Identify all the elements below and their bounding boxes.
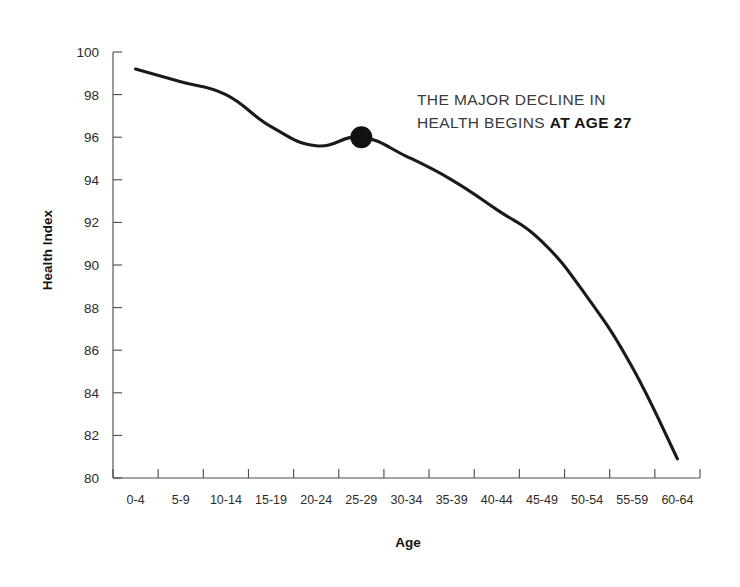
annotation-line-2: HEALTH BEGINS AT AGE 27 (417, 114, 632, 131)
x-tick-label: 60-64 (661, 493, 693, 507)
y-tick-label: 90 (84, 258, 99, 273)
x-tick-label: 25-29 (345, 493, 377, 507)
x-tick-label: 35-39 (436, 493, 468, 507)
y-tick-label: 94 (84, 173, 100, 188)
x-tick-label: 40-44 (481, 493, 513, 507)
y-tick-label: 100 (76, 45, 99, 60)
y-tick-label: 82 (84, 428, 99, 443)
x-tick-label: 0-4 (127, 493, 145, 507)
x-tick-label: 45-49 (526, 493, 558, 507)
y-tick-label: 92 (84, 215, 99, 230)
y-axis-ticks: 80828486889092949698100 (76, 45, 122, 486)
age-27-marker-dot (350, 126, 372, 148)
major-decline-annotation: THE MAJOR DECLINE IN HEALTH BEGINS AT AG… (417, 91, 632, 131)
x-tick-label: 10-14 (210, 493, 242, 507)
y-tick-label: 96 (84, 130, 99, 145)
y-tick-label: 84 (84, 386, 100, 401)
x-tick-label: 15-19 (255, 493, 287, 507)
x-tick-label: 55-59 (616, 493, 648, 507)
x-tick-label: 50-54 (571, 493, 603, 507)
y-tick-label: 80 (84, 471, 99, 486)
y-tick-label: 98 (84, 88, 99, 103)
annotation-line-2-bold: AT AGE 27 (550, 114, 632, 131)
x-axis-title: Age (395, 535, 421, 550)
x-tick-label: 5-9 (172, 493, 190, 507)
x-axis-labels: 0-45-910-1415-1920-2425-2930-3435-3940-4… (127, 493, 694, 507)
x-tick-label: 20-24 (300, 493, 332, 507)
x-tick-label: 30-34 (391, 493, 423, 507)
y-tick-label: 86 (84, 343, 99, 358)
x-axis-ticks (113, 469, 700, 478)
health-index-line-chart: 80828486889092949698100 0-45-910-1415-19… (0, 0, 740, 587)
annotation-line-1: THE MAJOR DECLINE IN (417, 91, 606, 108)
chart-canvas: 80828486889092949698100 0-45-910-1415-19… (0, 0, 740, 587)
y-axis-title: Health Index (40, 209, 55, 290)
annotation-line-2-normal: HEALTH BEGINS (417, 114, 550, 131)
y-tick-label: 88 (84, 301, 99, 316)
